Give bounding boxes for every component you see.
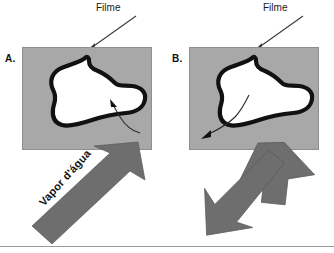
panel-b: B. Filme Vapor d'água: [167, 0, 334, 253]
figure-root: A. Filme Vapor d'água B. Filme: [0, 0, 334, 253]
panel-a: A. Filme Vapor d'água: [0, 0, 167, 253]
panel-a-letter: A.: [5, 53, 15, 64]
panel-b-letter: B.: [172, 53, 182, 64]
panel-b-blob-outline-icon: [189, 47, 319, 150]
bottom-divider: [0, 246, 334, 247]
panel-a-blob-outline-icon: [22, 47, 152, 150]
panel-b-vapor-arrow-icon: [187, 140, 322, 250]
